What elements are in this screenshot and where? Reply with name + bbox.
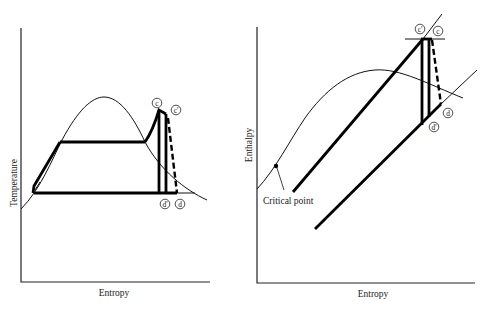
hs-evaporating-extension: [441, 70, 477, 104]
ts-point-d: d: [175, 199, 185, 209]
hs-point-d-prime: d': [429, 122, 439, 132]
ts-point-c: c: [152, 98, 162, 108]
diagram-canvas: c c' d' d Entropy Temperature Critical p…: [0, 0, 489, 310]
ts-point-d-prime: d': [160, 199, 170, 209]
svg-text:d: d: [178, 200, 182, 209]
hs-actual-compression-dashed: [432, 40, 441, 104]
hs-x-axis-label: Entropy: [358, 289, 389, 299]
hs-critical-point-label: Critical point: [263, 196, 314, 206]
hs-axes: [257, 27, 475, 283]
ts-axes: [21, 28, 210, 282]
hs-critical-point-marker: [274, 164, 278, 168]
svg-text:d': d': [431, 123, 437, 132]
ts-superheat-curve: [145, 110, 166, 142]
svg-text:c': c': [174, 106, 179, 115]
ts-x-axis-label: Entropy: [99, 288, 130, 298]
hs-condensing-pressure-line: [293, 39, 423, 192]
ts-diagram: c c' d' d Entropy Temperature: [9, 28, 210, 298]
svg-text:d': d': [162, 200, 168, 209]
hs-point-d: d: [443, 108, 453, 118]
hs-diagram: Critical point c' c d d': [244, 14, 477, 299]
ts-y-axis-label: Temperature: [9, 159, 19, 207]
ts-point-c-prime: c': [171, 105, 181, 115]
hs-y-axis-label: Enthalpy: [244, 128, 254, 163]
svg-text:d: d: [446, 109, 450, 118]
svg-text:c': c': [418, 25, 423, 34]
ts-actual-compression-dashed: [168, 118, 177, 193]
ts-cycle-liquid-line: [33, 142, 60, 193]
hs-point-c-prime: c': [415, 24, 425, 34]
hs-critical-point-leader: [277, 168, 284, 190]
hs-point-c: c: [433, 26, 443, 36]
